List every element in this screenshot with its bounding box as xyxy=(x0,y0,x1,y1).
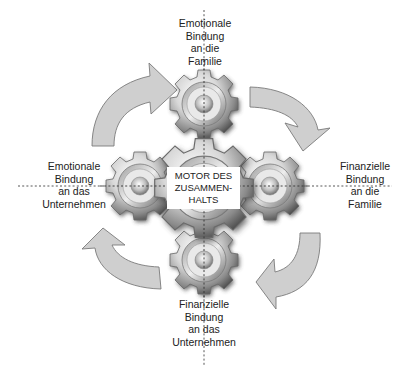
arrow-bottom-to-left xyxy=(82,228,161,289)
label-bottom-financial-company: Finanzielle Bindung an das Unternehmen xyxy=(158,298,250,348)
arrow-top-to-right xyxy=(250,87,330,151)
label-right-financial-family: Finanzielle Bindung an die Familie xyxy=(330,160,400,210)
arrow-right-to-bottom xyxy=(256,233,320,309)
arrow-left-to-top xyxy=(92,63,177,146)
label-top-emotional-family: Emotionale Bindung an die Familie xyxy=(170,17,240,67)
center-label-motor: MOTOR DES ZUSAMMEN- HALTS xyxy=(167,167,240,209)
label-left-emotional-company: Emotionale Bindung an das Unternehmen xyxy=(28,160,120,210)
gear-top-icon xyxy=(170,70,240,140)
motor-diagram: MOTOR DES ZUSAMMEN- HALTS Emotionale Bin… xyxy=(0,0,407,373)
